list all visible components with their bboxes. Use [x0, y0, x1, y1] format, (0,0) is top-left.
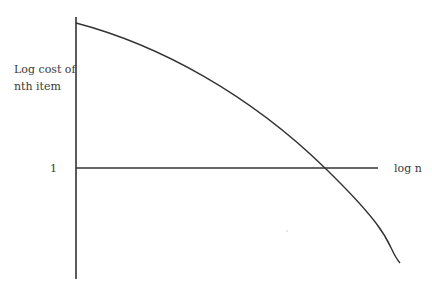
chart-canvas — [0, 0, 432, 288]
y-axis-label-line2: nth item — [14, 78, 84, 95]
y-axis-label: Log cost of nth item — [14, 61, 84, 95]
y-axis-label-line1: Log cost of — [14, 61, 84, 78]
cost-curve — [76, 23, 400, 263]
y-tick-1: 1 — [50, 160, 57, 177]
stray-dot — [286, 230, 287, 231]
x-axis-label: log n — [394, 160, 422, 177]
